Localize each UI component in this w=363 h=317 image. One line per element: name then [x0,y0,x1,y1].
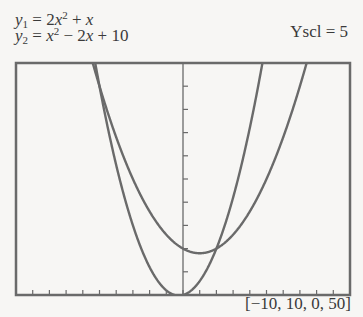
graph-plot [0,0,363,317]
